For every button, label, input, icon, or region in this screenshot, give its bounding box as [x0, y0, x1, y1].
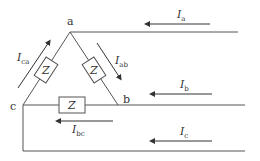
circuit-wiring — [0, 0, 260, 161]
impedance-ab-label: Z — [90, 65, 98, 76]
current-iab-label: Iab — [115, 55, 128, 69]
line-c-wire — [23, 105, 245, 151]
node-b-label: b — [123, 94, 130, 105]
node-c-label: c — [10, 101, 16, 112]
delta-circuit-diagram: a b c Z Z Z Ia Ib Ic Ica Iab Ibc — [0, 0, 260, 161]
current-ica-label: Ica — [17, 52, 29, 66]
impedance-bc-label: Z — [68, 100, 76, 111]
current-ia-label: Ia — [177, 9, 186, 23]
impedance-ca-label: Z — [42, 65, 50, 76]
current-ib-label: Ib — [180, 79, 189, 93]
current-ibc-label: Ibc — [72, 124, 85, 138]
current-ic-label: Ic — [180, 126, 188, 140]
node-a-label: a — [67, 16, 74, 27]
